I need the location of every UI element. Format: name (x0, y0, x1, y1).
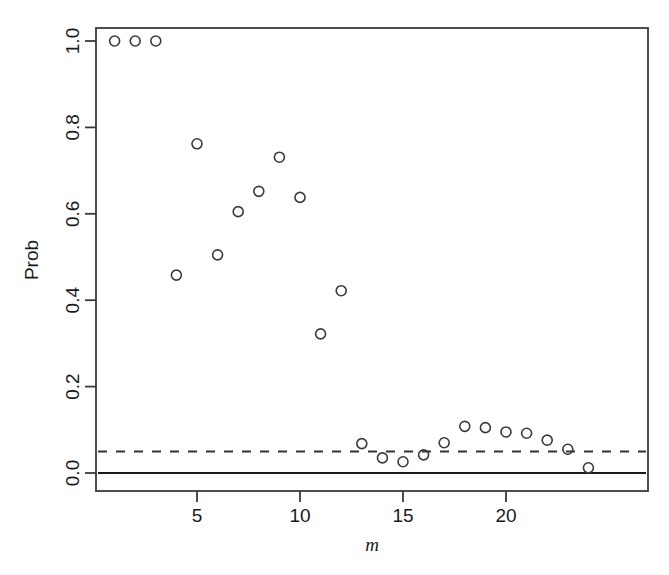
figure-background (0, 0, 669, 575)
x-tick-label: 15 (392, 505, 413, 526)
x-axis-title: m (365, 534, 379, 555)
y-tick-label: 0.8 (62, 114, 83, 140)
y-tick-label: 1.0 (62, 28, 83, 54)
y-tick-label: 0.4 (62, 287, 83, 314)
x-tick-label: 5 (192, 505, 203, 526)
y-tick-label: 0.0 (62, 460, 83, 486)
y-axis-title: Prob (21, 240, 42, 280)
x-tick-label: 10 (289, 505, 310, 526)
x-tick-label: 20 (495, 505, 516, 526)
scatter-plot-figure: 0.00.20.40.60.81.0 5101520 Prob m (0, 0, 669, 575)
y-tick-label: 0.6 (62, 201, 83, 227)
y-tick-label: 0.2 (62, 373, 83, 399)
plot-canvas: 0.00.20.40.60.81.0 5101520 Prob m (0, 0, 669, 575)
